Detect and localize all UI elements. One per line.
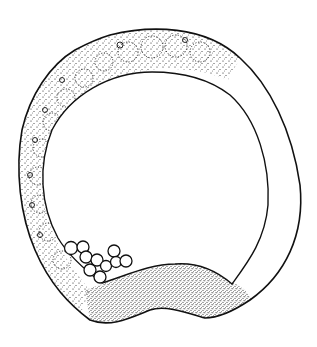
embryo-drawing bbox=[0, 0, 317, 347]
embryo-illustration bbox=[0, 0, 317, 347]
